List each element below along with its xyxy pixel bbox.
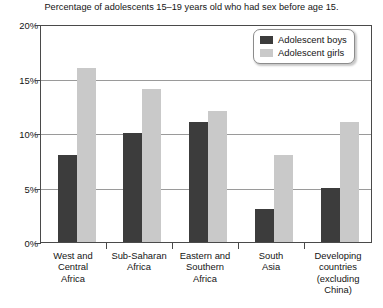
chart-title: Percentage of adolescents 15–19 years ol… <box>0 1 383 13</box>
bar-girls-sub-saharan-africa <box>142 89 161 242</box>
x-axis-label-line: Asia <box>238 261 304 272</box>
x-axis-tick-mark-4 <box>304 243 305 249</box>
bar-girls-south-asia <box>274 155 293 242</box>
legend-label-girls: Adolescent girls <box>278 47 344 58</box>
x-axis-label-sub-saharan-africa: Sub-Saharan Africa <box>106 250 172 273</box>
x-axis-label-line: Southern <box>172 261 238 272</box>
x-axis-label-west-and-central-africa: West and Central Africa <box>40 250 106 284</box>
x-axis-label-line: (excluding <box>304 273 372 284</box>
bar-boys-west-and-central-africa <box>58 155 77 242</box>
bar-girls-eastern-and-southern-africa <box>208 111 227 242</box>
y-axis-tick-label-15: 15% <box>6 76 38 86</box>
x-axis-label-developing-countries: Developing countries (excluding China) <box>304 250 372 296</box>
x-axis-label-line: Sub-Saharan <box>106 250 172 261</box>
legend-item-adolescent-girls: Adolescent girls <box>260 46 347 59</box>
x-axis-label-line: South <box>238 250 304 261</box>
x-axis-label-line: Developing <box>304 250 372 261</box>
legend-swatch-icon-girls <box>260 49 273 57</box>
chart-figure: Percentage of adolescents 15–19 years ol… <box>0 0 383 308</box>
bar-boys-south-asia <box>255 209 274 242</box>
x-axis-label-line: Africa <box>40 273 106 284</box>
x-axis-tick-mark-2 <box>172 243 173 249</box>
y-axis-tick-label-10: 10% <box>6 130 38 140</box>
bar-boys-eastern-and-southern-africa <box>189 122 208 242</box>
y-axis-tick-label-0: 0% <box>6 239 38 249</box>
x-axis-label-south-asia: South Asia <box>238 250 304 273</box>
bar-boys-developing-countries <box>321 188 340 243</box>
x-axis-tick-mark-3 <box>238 243 239 249</box>
legend-label-boys: Adolescent boys <box>278 34 347 45</box>
x-axis-label-line: Africa <box>106 261 172 272</box>
legend-swatch-icon-boys <box>260 36 273 44</box>
legend-item-adolescent-boys: Adolescent boys <box>260 33 347 46</box>
bar-girls-developing-countries <box>340 122 359 242</box>
x-axis-label-line: Africa <box>172 273 238 284</box>
chart-legend: Adolescent boys Adolescent girls <box>253 29 355 64</box>
x-axis-label-line: Eastern and <box>172 250 238 261</box>
x-axis-tick-mark-1 <box>106 243 107 249</box>
x-axis-label-line: Central <box>40 261 106 272</box>
y-axis-tick-label-20: 20% <box>6 21 38 31</box>
y-axis-tick-label-5: 5% <box>6 185 38 195</box>
bar-boys-sub-saharan-africa <box>123 133 142 242</box>
x-axis-label-line: China) <box>304 284 372 295</box>
x-axis-label-eastern-and-southern-africa: Eastern and Southern Africa <box>172 250 238 284</box>
bar-girls-west-and-central-africa <box>77 68 96 242</box>
x-axis-label-line: West and <box>40 250 106 261</box>
x-axis-label-line: countries <box>304 261 372 272</box>
y-axis-tick-mark-0 <box>35 243 41 244</box>
